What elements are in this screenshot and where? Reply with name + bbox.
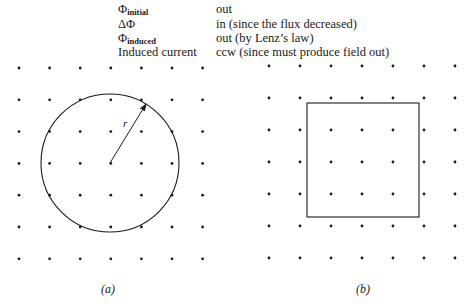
field-dot — [423, 257, 426, 260]
field-dot — [140, 162, 143, 165]
field-dot — [109, 194, 112, 197]
field-dot — [423, 129, 426, 132]
field-dot — [423, 225, 426, 228]
field-dot — [454, 225, 457, 228]
field-dot — [79, 67, 82, 70]
field-dot — [454, 97, 457, 100]
field-dot — [18, 226, 21, 229]
field-dot — [392, 193, 395, 196]
field-dot — [268, 65, 271, 68]
caption-b: (b) — [356, 282, 370, 297]
field-dot — [109, 130, 112, 133]
field-dot — [330, 97, 333, 100]
field-dot — [361, 225, 364, 228]
field-dot — [330, 129, 333, 132]
field-dot — [392, 129, 395, 132]
field-dot — [454, 65, 457, 68]
field-dot — [18, 130, 21, 133]
field-dot — [268, 161, 271, 164]
field-dot — [299, 97, 302, 100]
field-dot — [48, 98, 51, 101]
field-dot — [171, 226, 174, 229]
field-dot — [330, 65, 333, 68]
field-dot — [171, 162, 174, 165]
field-dot — [330, 225, 333, 228]
field-dot — [201, 67, 204, 70]
field-dot — [79, 257, 82, 260]
field-dot — [48, 257, 51, 260]
field-dot — [140, 130, 143, 133]
field-dot — [330, 257, 333, 260]
field-dot — [299, 225, 302, 228]
field-dot — [268, 193, 271, 196]
field-dot — [201, 257, 204, 260]
field-dot — [171, 98, 174, 101]
field-dot — [299, 65, 302, 68]
field-dot — [79, 130, 82, 133]
field-dot — [361, 97, 364, 100]
field-dot — [268, 257, 271, 260]
field-dot — [109, 257, 112, 260]
field-dot — [392, 97, 395, 100]
field-dot — [330, 161, 333, 164]
field-dot — [140, 257, 143, 260]
field-dot — [423, 161, 426, 164]
field-dot — [361, 161, 364, 164]
field-dot — [79, 162, 82, 165]
field-dot — [454, 257, 457, 260]
field-dot — [299, 257, 302, 260]
field-dot — [109, 98, 112, 101]
field-dot — [48, 67, 51, 70]
field-dot — [423, 65, 426, 68]
field-dot — [392, 161, 395, 164]
field-dot — [201, 98, 204, 101]
field-dot — [392, 225, 395, 228]
radius-label: r — [123, 117, 128, 129]
field-dot — [18, 162, 21, 165]
field-dot — [330, 193, 333, 196]
field-dot — [140, 67, 143, 70]
field-dot — [201, 194, 204, 197]
field-dot — [392, 257, 395, 260]
field-dot — [361, 65, 364, 68]
field-dot — [299, 161, 302, 164]
field-dot — [454, 193, 457, 196]
field-dot — [361, 193, 364, 196]
field-dot — [201, 226, 204, 229]
field-dot — [268, 129, 271, 132]
field-dot — [109, 67, 112, 70]
field-dot — [109, 226, 112, 229]
field-dot — [201, 130, 204, 133]
field-dot — [171, 67, 174, 70]
field-dot — [423, 97, 426, 100]
field-dot — [268, 225, 271, 228]
field-dot — [361, 257, 364, 260]
field-dot — [18, 67, 21, 70]
field-dot — [423, 193, 426, 196]
field-dot — [299, 129, 302, 132]
field-dot — [48, 226, 51, 229]
field-dot — [171, 257, 174, 260]
field-dot — [454, 129, 457, 132]
field-dot — [268, 97, 271, 100]
field-dot — [18, 194, 21, 197]
field-dots-a — [18, 67, 204, 261]
field-dot — [48, 162, 51, 165]
field-dot — [392, 65, 395, 68]
field-dot — [361, 129, 364, 132]
field-dot — [201, 162, 204, 165]
field-dots-b — [268, 65, 457, 260]
field-dot — [140, 194, 143, 197]
radius-arrow — [110, 104, 146, 163]
caption-a: (a) — [101, 282, 115, 297]
field-dot — [79, 194, 82, 197]
field-dot — [18, 98, 21, 101]
field-diagrams: r — [0, 0, 467, 306]
square-loop — [307, 103, 419, 217]
field-dot — [299, 193, 302, 196]
field-dot — [140, 226, 143, 229]
field-dot — [454, 161, 457, 164]
field-dot — [18, 257, 21, 260]
